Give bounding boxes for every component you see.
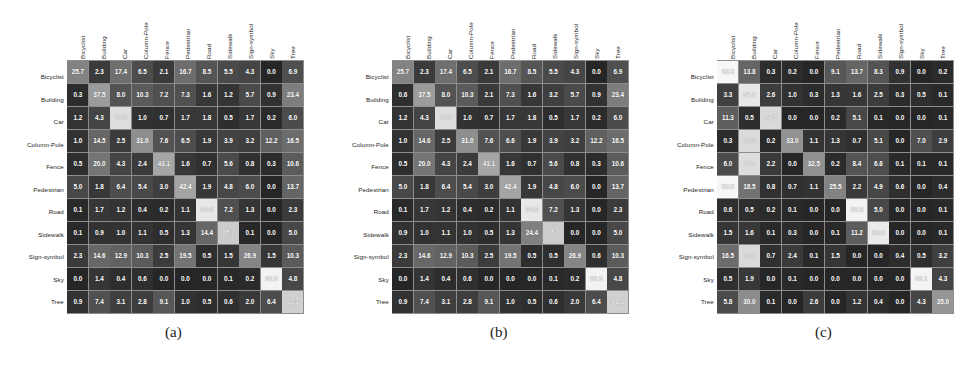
heatmap-cell: 13.7 xyxy=(846,61,867,84)
heatmap-cell: 76.0 xyxy=(739,130,760,153)
cell-value: 3.0 xyxy=(160,183,169,190)
cell-value: 0.2 xyxy=(831,160,840,167)
heatmap-cell: 0.0 xyxy=(825,199,846,222)
heatmap-cell: 8.3 xyxy=(868,61,889,84)
cell-value: 1.6 xyxy=(506,160,515,167)
row-label-spacer xyxy=(352,16,392,66)
heatmap-grid: 95.513.80.30.20.09.113.78.30.90.00.23.38… xyxy=(717,60,954,314)
cell-value: 0.9 xyxy=(896,68,905,75)
cell-value: 9.1 xyxy=(485,298,494,305)
heatmap-cell: 4.3 xyxy=(911,291,932,314)
cell-value: 0.6 xyxy=(896,183,905,190)
cell-value: 4.8 xyxy=(614,275,623,282)
cell-value: 0.0 xyxy=(810,206,819,213)
heatmap-cell: 10.6 xyxy=(607,153,628,176)
heatmap-cell: 0.0 xyxy=(825,291,846,314)
cell-value: 8.4 xyxy=(853,160,862,167)
cell-value: 25.5 xyxy=(829,183,841,190)
column-label-text: Sky xyxy=(918,48,925,59)
cell-value: 5.0 xyxy=(614,229,623,236)
heatmap-cell: 2.4 xyxy=(782,245,803,268)
heatmap-cell: 16.5 xyxy=(717,245,738,268)
cell-value: 0.4 xyxy=(874,298,883,305)
heatmap-cell: 0.0 xyxy=(782,291,803,314)
heatmap-cell: 0.1 xyxy=(760,222,781,245)
heatmap-cell: 0.8 xyxy=(239,153,260,176)
column-label-text: Car xyxy=(771,49,778,59)
cell-value: 1.9 xyxy=(528,137,537,144)
cell-value: 4.8 xyxy=(549,183,558,190)
column-label-text: Sidewalk xyxy=(226,33,233,59)
panel-body: BicyclistBuildingCarColumn-PoleFencePede… xyxy=(27,10,304,314)
heatmap-cell: 1.7 xyxy=(414,199,435,222)
heatmap-cell: 0.0 xyxy=(911,199,932,222)
heatmap-cell: 0.1 xyxy=(932,153,953,176)
column-label: Building xyxy=(88,10,109,60)
heatmap-cell: 77.0 xyxy=(435,107,456,130)
cell-value: 8.3 xyxy=(874,68,883,75)
heatmap-cell: 2.6 xyxy=(803,291,824,314)
heatmap-cell: 3.9 xyxy=(218,130,239,153)
heatmap-cell: 6.4 xyxy=(110,176,131,199)
heatmap-cell: 7.2 xyxy=(153,84,174,107)
cell-value: 1.6 xyxy=(528,91,537,98)
cell-value: 74.6 xyxy=(765,114,777,121)
cell-value: 1.0 xyxy=(399,137,408,144)
cell-value: 17.4 xyxy=(440,68,452,75)
heatmap-cell: 6.6 xyxy=(868,153,889,176)
heatmap-cell: 1.6 xyxy=(500,153,521,176)
heatmap-cell: 0.9 xyxy=(586,84,607,107)
column-label-text: Tree xyxy=(939,46,946,59)
column-label: Fence xyxy=(476,10,497,60)
cell-value: 6.6 xyxy=(506,137,515,144)
cell-value: 4.8 xyxy=(224,183,233,190)
cell-value: 4.3 xyxy=(571,68,580,75)
heatmap-cell: 0.1 xyxy=(218,268,239,291)
cell-value: 77.0 xyxy=(115,114,127,121)
cell-value: 2.5 xyxy=(442,137,451,144)
cell-value: 2.3 xyxy=(95,68,104,75)
heatmap-cell: 5.0 xyxy=(67,176,88,199)
cell-value: 5.7 xyxy=(571,91,580,98)
heatmap-cell: 0.7 xyxy=(196,153,217,176)
heatmap-cell: 3.0 xyxy=(153,176,174,199)
heatmap-cell: 7.2 xyxy=(543,199,564,222)
column-label-text: Car xyxy=(121,49,128,59)
cell-value: 6.9 xyxy=(614,68,623,75)
column-label: Car xyxy=(109,10,130,60)
heatmap-cell: 74.6 xyxy=(760,107,781,130)
cell-value: 1.1 xyxy=(181,206,190,213)
heatmap-cell: 2.5 xyxy=(478,245,499,268)
heatmap-cell: 92.5 xyxy=(846,199,867,222)
heatmap-cell: 6.4 xyxy=(261,291,282,314)
heatmap-cell: 6.0 xyxy=(564,176,585,199)
heatmap-cell: 3.2 xyxy=(932,245,953,268)
heatmap-cell: 0.8 xyxy=(564,153,585,176)
heatmap-cell: 0.5 xyxy=(911,84,932,107)
heatmap-cell: 1.9 xyxy=(196,130,217,153)
cell-value: 30.0 xyxy=(743,298,755,305)
column-label-text: Fence xyxy=(813,41,820,59)
heatmap-cell: 1.0 xyxy=(457,222,478,245)
cell-value: 6.0 xyxy=(614,114,623,121)
cell-value: 0.0 xyxy=(160,275,169,282)
cell-value: 2.5 xyxy=(160,252,169,259)
cell-value: 0.0 xyxy=(788,160,797,167)
cell-value: 1.3 xyxy=(246,206,255,213)
heatmap-cell: 14.6 xyxy=(414,130,435,153)
heatmap-cell: 1.2 xyxy=(392,107,413,130)
cell-value: 1.3 xyxy=(831,91,840,98)
heatmap-cell: 1.7 xyxy=(239,107,260,130)
cell-value: 0.1 xyxy=(939,206,948,213)
cell-value: 0.0 xyxy=(831,206,840,213)
heatmap-cell: 4.3 xyxy=(932,268,953,291)
cell-value: 6.4 xyxy=(267,298,276,305)
heatmap-cell: 0.1 xyxy=(889,153,910,176)
cell-value: 2.0 xyxy=(571,298,580,305)
cell-value: 16.5 xyxy=(612,137,624,144)
heatmap-cell: 5.6 xyxy=(543,153,564,176)
heatmap-cell: 0.0 xyxy=(586,222,607,245)
cell-value: 1.3 xyxy=(506,229,515,236)
row-label: Building xyxy=(352,89,392,112)
cell-value: 0.5 xyxy=(203,252,212,259)
